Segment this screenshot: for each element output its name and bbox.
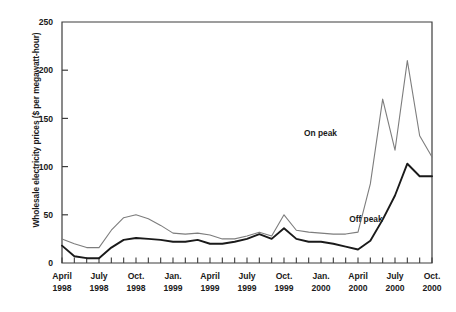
x-tick-label-month: April [52, 271, 72, 281]
x-tick-label-year: 2000 [311, 283, 330, 293]
x-tick-label-month: April [348, 271, 368, 281]
x-tick-label-month: Oct. [276, 271, 293, 281]
x-tick-label-year: 1999 [200, 283, 219, 293]
x-tick-label-year: 1998 [126, 283, 145, 293]
y-axis-title: Wholesale electricity prices ($ per mega… [31, 15, 41, 245]
series-line-off-peak [62, 164, 432, 258]
y-tick-label: 50 [43, 210, 53, 220]
x-tick-label-month: July [386, 271, 403, 281]
x-tick-label-month: July [238, 271, 255, 281]
x-tick-label-month: Oct. [128, 271, 145, 281]
x-tick-label-year: 2000 [422, 283, 441, 293]
line-chart-plot: 050100150200250April1998July1998Oct.1998… [0, 0, 456, 312]
y-tick-label: 0 [48, 258, 53, 268]
x-tick-label-year: 2000 [348, 283, 367, 293]
x-tick-label-month: Oct. [424, 271, 441, 281]
x-tick-label-year: 1999 [274, 283, 293, 293]
x-tick-label-month: July [90, 271, 107, 281]
x-tick-label-month: April [200, 271, 220, 281]
x-tick-label-year: 1998 [52, 283, 71, 293]
x-tick-label-month: Jan. [164, 271, 181, 281]
x-tick-label-year: 1999 [237, 283, 256, 293]
chart-figure: Wholesale electricity prices ($ per mega… [0, 0, 456, 312]
x-tick-label-month: Jan. [312, 271, 329, 281]
x-tick-label-year: 1998 [89, 283, 108, 293]
series-label-on-peak: On peak [304, 128, 337, 138]
x-tick-label-year: 1999 [163, 283, 182, 293]
x-tick-label-year: 2000 [385, 283, 404, 293]
series-label-off-peak: Off peak [349, 214, 383, 224]
